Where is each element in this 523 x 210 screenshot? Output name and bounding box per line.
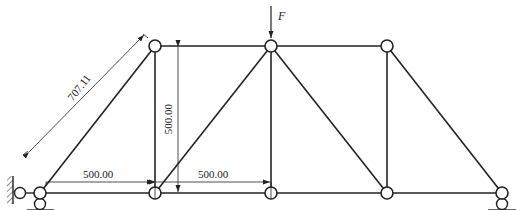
node-B4 <box>381 187 393 199</box>
load-force: F <box>271 6 286 38</box>
member-diagonal-2 <box>271 46 387 193</box>
truss-diagram: F 707.11 500.00 500.00 500.00 <box>0 0 523 210</box>
member-end-diagonal-right <box>387 46 502 193</box>
dimension-diagonal <box>23 34 148 155</box>
dimension-span-1 <box>46 182 155 199</box>
load-label: F <box>277 9 286 23</box>
dimension-span-1-label: 500.00 <box>83 168 114 180</box>
dimension-span-2-label: 500.00 <box>198 168 229 180</box>
node-T3 <box>381 40 393 52</box>
dimension-height-label: 500.00 <box>162 103 174 134</box>
node-B1 <box>34 187 46 199</box>
dimension-diagonal-label: 707.11 <box>65 72 93 103</box>
node-B5 <box>496 187 508 199</box>
node-T2 <box>265 40 277 52</box>
dimension-span-2 <box>156 182 271 199</box>
node-T1 <box>149 40 161 52</box>
